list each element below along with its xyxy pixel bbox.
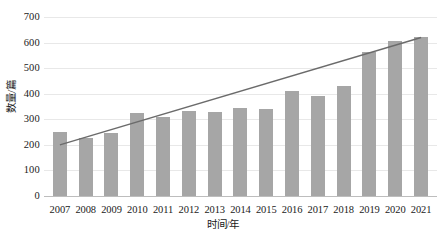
x-axis-tick-label: 2011 (153, 204, 173, 215)
y-axis-tick-label: 600 (0, 38, 40, 48)
x-tick-slot: 2021 (408, 199, 434, 215)
bar-slot (279, 17, 305, 196)
x-axis-title: 时间/年 (0, 216, 446, 231)
bar[interactable] (311, 96, 325, 196)
bar[interactable] (53, 132, 67, 196)
x-axis-tick-label: 2019 (359, 204, 380, 215)
x-tick-slot: 2009 (99, 199, 125, 215)
y-axis-tick-label: 100 (0, 165, 40, 175)
bar-slot (124, 17, 150, 196)
y-axis-tick-label: 0 (0, 191, 40, 201)
bar[interactable] (414, 37, 428, 196)
x-axis-tick-label: 2007 (50, 204, 71, 215)
bar-slot (357, 17, 383, 196)
bar[interactable] (182, 111, 196, 196)
x-tick-slot: 2016 (279, 199, 305, 215)
x-axis-tick-label: 2017 (308, 204, 329, 215)
x-tick-slot: 2019 (357, 199, 383, 215)
bar[interactable] (208, 112, 222, 196)
x-tick-slot: 2017 (305, 199, 331, 215)
x-tick-slot: 2018 (331, 199, 357, 215)
bar[interactable] (104, 133, 118, 196)
x-axis-tick-label: 2008 (75, 204, 96, 215)
bar[interactable] (233, 108, 247, 196)
x-axis-tick-label: 2020 (385, 204, 406, 215)
bar-slot (305, 17, 331, 196)
bar-chart: 0100200300400500600700 20072008200920102… (0, 0, 446, 239)
bar-slot (382, 17, 408, 196)
x-tick-slot: 2012 (176, 199, 202, 215)
x-tick-slot: 2014 (228, 199, 254, 215)
bar-slot (99, 17, 125, 196)
x-axis-tick-label: 2014 (230, 204, 251, 215)
bar[interactable] (130, 113, 144, 196)
bar-slot (73, 17, 99, 196)
x-axis-tick-label: 2021 (411, 204, 432, 215)
plot-area (44, 17, 437, 196)
x-tick-slot: 2015 (253, 199, 279, 215)
x-tick-slot: 2020 (382, 199, 408, 215)
x-axis-tick-label: 2015 (256, 204, 277, 215)
x-axis-tick-label: 2018 (333, 204, 354, 215)
x-tick-slot: 2008 (73, 199, 99, 215)
bar[interactable] (362, 52, 376, 196)
bar[interactable] (337, 86, 351, 196)
x-tick-slot: 2013 (202, 199, 228, 215)
x-tick-slot: 2011 (150, 199, 176, 215)
bar[interactable] (156, 117, 170, 196)
x-axis-tick-label: 2012 (179, 204, 200, 215)
bar-slot (176, 17, 202, 196)
y-axis-tick-label: 200 (0, 140, 40, 150)
x-axis-tick-label: 2016 (282, 204, 303, 215)
bar-slot (408, 17, 434, 196)
bar-slot (228, 17, 254, 196)
bar[interactable] (79, 138, 93, 196)
bar-slot (47, 17, 73, 196)
y-axis-tick-label: 700 (0, 12, 40, 22)
x-axis-tick-labels: 2007200820092010201120122013201420152016… (44, 199, 437, 215)
bar[interactable] (259, 109, 273, 196)
bar[interactable] (285, 91, 299, 196)
y-axis-title: 数量/篇 (3, 61, 18, 133)
bar-slot (202, 17, 228, 196)
x-axis-tick-label: 2010 (127, 204, 148, 215)
bar-slot (331, 17, 357, 196)
bar-slot (150, 17, 176, 196)
bar[interactable] (388, 41, 402, 196)
x-tick-slot: 2010 (124, 199, 150, 215)
x-axis-tick-label: 2013 (204, 204, 225, 215)
gridline (44, 196, 437, 197)
x-axis-tick-label: 2009 (101, 204, 122, 215)
bar-series (44, 17, 437, 196)
bar-slot (253, 17, 279, 196)
x-tick-slot: 2007 (47, 199, 73, 215)
